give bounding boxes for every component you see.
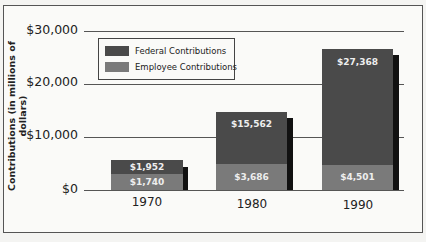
- y-axis-label: Contributions (in millions of dollars): [6, 41, 28, 191]
- legend-swatch-employee: [105, 62, 129, 72]
- x-label-1980: 1980: [222, 197, 282, 211]
- bar-segment-employee-1970: $1,740: [111, 174, 183, 190]
- legend-swatch-federal: [105, 46, 129, 56]
- x-label-1990: 1990: [328, 198, 388, 212]
- y-tick-0: $0: [8, 181, 78, 196]
- legend-item-employee: Employee Contributions: [105, 61, 237, 73]
- y-tick-10000: $10,000: [8, 127, 78, 142]
- y-tick-30000: $30,000: [8, 22, 78, 37]
- x-label-1970: 1970: [117, 195, 177, 209]
- bar-1990: $27,368 $4,501: [322, 49, 393, 190]
- bar-shadow-1980: [286, 118, 293, 190]
- legend-item-federal: Federal Contributions: [105, 45, 226, 57]
- bar-segment-employee-1990: $4,501: [322, 165, 393, 190]
- bar-segment-federal-1990: $27,368: [322, 49, 393, 165]
- gridline-30000: [84, 31, 404, 32]
- bar-1970: $1,952 $1,740: [111, 160, 183, 190]
- legend: Federal Contributions Employee Contribut…: [98, 38, 235, 80]
- bar-shadow-1990: [392, 55, 399, 190]
- bar-segment-employee-1980: $3,686: [216, 164, 287, 190]
- bar-segment-federal-1980: $15,562: [216, 112, 287, 164]
- legend-label-federal: Federal Contributions: [135, 46, 226, 56]
- bar-1980: $15,562 $3,686: [216, 112, 287, 190]
- y-tick-20000: $20,000: [8, 74, 78, 89]
- legend-label-employee: Employee Contributions: [135, 62, 237, 72]
- gridline-0: [84, 190, 404, 191]
- bar-segment-federal-1970: $1,952: [111, 160, 183, 174]
